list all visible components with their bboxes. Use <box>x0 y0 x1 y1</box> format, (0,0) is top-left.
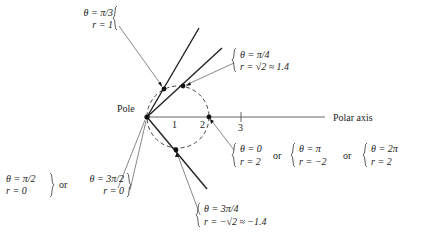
annot-pi-r: r = −2 <box>299 156 326 167</box>
point-pi3 <box>162 87 167 92</box>
leader-pole-b <box>130 121 146 190</box>
polar-diagram: Pole Polar axis 1 2 3 θ = π/3 r = 1 θ = … <box>0 0 431 232</box>
annot-zero-theta: θ = 0 <box>240 143 262 154</box>
tick-label-1: 1 <box>172 119 177 130</box>
annot-3pi4-theta: θ = 3π/4 <box>204 203 238 214</box>
point-r2 <box>207 115 212 120</box>
annot-zero-r: r = 2 <box>240 156 261 167</box>
annot-pi3-theta: θ = π/3 <box>84 7 113 18</box>
leader-r2 <box>211 120 234 150</box>
annot-pi4-theta: θ = π/4 <box>240 49 269 60</box>
leader-3pi4 <box>177 153 200 215</box>
polar-axis-label: Polar axis <box>333 112 373 123</box>
brace-zero-b <box>291 143 295 167</box>
annot-2pi-theta: θ = 2π <box>371 143 399 154</box>
annot-2pi-r: r = 2 <box>371 156 392 167</box>
tick-label-2: 2 <box>200 119 205 130</box>
brace-pi4 <box>232 48 236 72</box>
point-pi4 <box>181 84 186 89</box>
pole-label: Pole <box>117 103 135 114</box>
leader-pi3 <box>119 26 162 86</box>
annot-3pi4-r: r = −√2 ≈ −1.4 <box>204 216 267 227</box>
annot-pi3-r: r = 1 <box>92 19 113 30</box>
point-3pi4 <box>174 148 179 153</box>
tick-label-3: 3 <box>238 122 243 133</box>
annot-pole-b-theta: θ = 3π/2 <box>90 173 124 184</box>
or-1: or <box>273 150 282 161</box>
annot-pi4-r: r = √2 ≈ 1.4 <box>240 61 289 72</box>
brace-zero-c <box>363 143 367 167</box>
brace-pi3 <box>113 6 117 30</box>
or-3: or <box>59 179 68 190</box>
annot-pole-b-r: r = 0 <box>103 185 124 196</box>
annot-pi-theta: θ = π <box>299 143 322 154</box>
brace-zero-a <box>232 143 236 167</box>
annot-pole-a-r: r = 0 <box>6 185 27 196</box>
brace-pole-a <box>50 173 54 197</box>
ray-pi-over-3 <box>147 28 199 117</box>
pole-point <box>144 114 149 119</box>
or-2: or <box>343 150 352 161</box>
ray-pi-over-4 <box>147 48 222 117</box>
annot-pole-a-theta: θ = π/2 <box>6 173 35 184</box>
brace-pole-b <box>127 173 131 197</box>
